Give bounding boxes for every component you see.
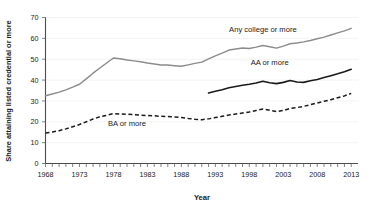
x-tick-label-2003: 2003	[275, 170, 291, 179]
series-line-aa-or-more	[209, 69, 352, 93]
x-tick-label-1983: 1983	[139, 170, 155, 179]
x-tick-label-1998: 1998	[241, 170, 257, 179]
x-tick-label-1973: 1973	[71, 170, 87, 179]
y-axis-title: Share attaining listed credential or mor…	[4, 20, 13, 161]
x-tick-label-1968: 1968	[38, 170, 54, 179]
line-chart: 010203040506070 196819731978198319881993…	[0, 0, 384, 216]
x-tick-label-1988: 1988	[173, 170, 189, 179]
y-tick-label-60: 60	[31, 34, 39, 43]
y-tick-label-40: 40	[31, 76, 39, 85]
x-axis-title: Year	[194, 193, 210, 202]
y-tick-label-10: 10	[31, 138, 39, 147]
series-label-any-college-or-more: Any college or more	[229, 25, 297, 34]
x-tick-label-2013: 2013	[343, 170, 359, 179]
y-tick-label-30: 30	[31, 97, 39, 106]
x-tick-label-1993: 1993	[207, 170, 223, 179]
x-tick-label-2008: 2008	[309, 170, 325, 179]
y-tick-label-0: 0	[35, 159, 39, 168]
y-tick-label-20: 20	[31, 117, 39, 126]
y-tick-label-50: 50	[31, 55, 39, 64]
series-label-ba-or-more: BA or more	[108, 119, 146, 128]
series-label-aa-or-more: AA or more	[251, 58, 289, 67]
series-line-ba-or-more	[46, 93, 352, 133]
x-tick-label-1978: 1978	[105, 170, 121, 179]
y-axis-tick-labels: 010203040506070	[31, 13, 39, 168]
series-line-any-college-or-more	[46, 28, 352, 95]
y-tick-label-70: 70	[31, 13, 39, 22]
chart-container: 010203040506070 196819731978198319881993…	[0, 0, 384, 216]
x-axis-tick-labels: 1968197319781983198819931998200320082013	[38, 170, 360, 179]
